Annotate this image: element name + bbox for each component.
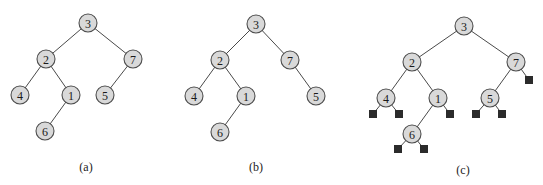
tree-node-6: 6: [211, 123, 229, 141]
binary-tree-figure: 3274156 (a) 3274156 (b) 3274156 (c): [0, 0, 543, 185]
tree-nodes: 3274156: [185, 15, 325, 141]
tree-node-3: 3: [247, 15, 265, 33]
tree-node-4: 4: [377, 89, 395, 107]
node-label: 4: [191, 90, 197, 104]
node-label: 7: [287, 54, 293, 68]
tree-node-4: 4: [185, 87, 203, 105]
null-leaf-square: [525, 76, 533, 84]
tree-node-1: 1: [429, 89, 447, 107]
tree-node-3: 3: [455, 17, 473, 35]
panel-caption-a: (a): [79, 160, 92, 174]
tree-node-6: 6: [403, 125, 421, 143]
tree-edges: [194, 24, 316, 132]
tree-node-5: 5: [307, 87, 325, 105]
tree-node-4: 4: [11, 86, 29, 104]
tree-node-2: 2: [37, 50, 55, 68]
node-label: 3: [253, 18, 259, 32]
null-leaf-square: [369, 110, 377, 118]
node-label: 1: [243, 90, 249, 104]
tree-edges: [373, 26, 529, 149]
tree-node-5: 5: [96, 86, 114, 104]
null-leaf-square: [446, 110, 454, 118]
tree-node-1: 1: [237, 87, 255, 105]
node-label: 6: [409, 128, 415, 142]
tree-panel-a: 3274156 (a): [11, 14, 142, 174]
null-leaf-square: [395, 110, 403, 118]
tree-node-3: 3: [79, 14, 97, 32]
tree-node-1: 1: [62, 86, 80, 104]
node-label: 1: [68, 89, 74, 103]
tree-node-6: 6: [36, 122, 54, 140]
tree-panel-b: 3274156 (b): [185, 15, 325, 174]
null-leaf-square: [472, 110, 480, 118]
node-label: 3: [461, 20, 467, 34]
tree-node-2: 2: [403, 53, 421, 71]
tree-node-7: 7: [507, 53, 525, 71]
tree-panel-c: 3274156 (c): [369, 17, 533, 177]
node-label: 2: [217, 54, 223, 68]
null-leaf-square: [394, 145, 402, 153]
node-label: 4: [383, 92, 389, 106]
null-leaf-square: [498, 110, 506, 118]
node-label: 7: [513, 56, 519, 70]
node-label: 5: [102, 89, 108, 103]
panel-caption-b: (b): [249, 160, 263, 174]
panel-caption-c: (c): [456, 163, 469, 177]
tree-edges: [20, 23, 133, 131]
tree-node-7: 7: [124, 50, 142, 68]
tree-node-2: 2: [211, 51, 229, 69]
node-label: 2: [409, 56, 415, 70]
node-label: 2: [43, 53, 49, 67]
null-leaf-square: [420, 145, 428, 153]
node-label: 6: [217, 126, 223, 140]
node-label: 4: [17, 89, 23, 103]
node-label: 7: [130, 53, 136, 67]
tree-node-5: 5: [481, 89, 499, 107]
node-label: 5: [313, 90, 319, 104]
node-label: 5: [487, 92, 493, 106]
node-label: 1: [435, 92, 441, 106]
node-label: 3: [85, 17, 91, 31]
node-label: 6: [42, 125, 48, 139]
tree-node-7: 7: [281, 51, 299, 69]
